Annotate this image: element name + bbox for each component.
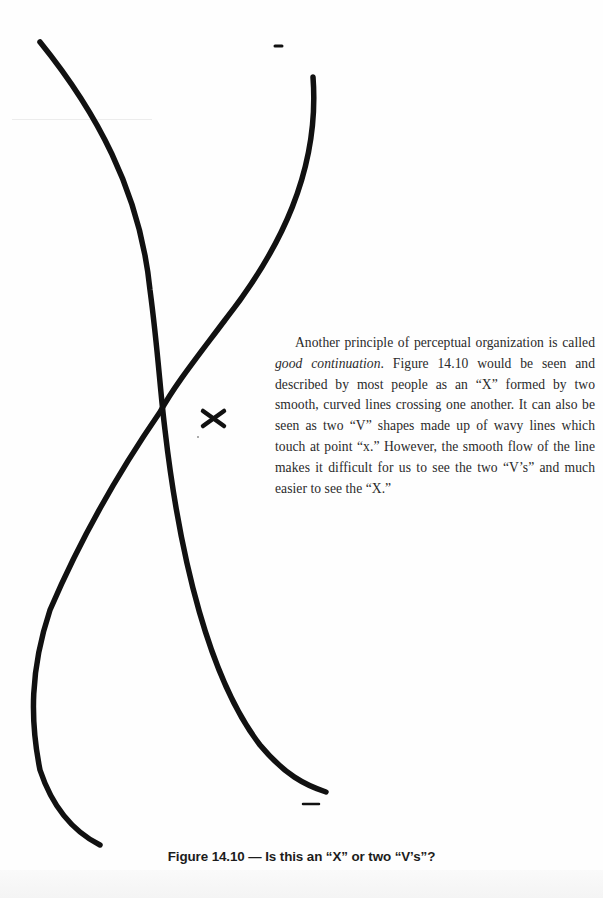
body-paragraph: Another principle of perceptual organiza… xyxy=(275,333,595,499)
point-x-marker xyxy=(203,411,224,426)
paragraph-rest: . Figure 14.10 would be seen and describ… xyxy=(275,356,595,496)
paragraph-lead: Another principle of perceptual organiza… xyxy=(295,335,595,350)
curve-line-two xyxy=(33,77,313,845)
figure-caption: Figure 14.10 — Is this an “X” or two “V’… xyxy=(0,849,603,864)
dot-mark xyxy=(197,436,199,438)
page-bottom-shadow xyxy=(0,870,603,898)
key-term: good continuation xyxy=(275,356,381,371)
